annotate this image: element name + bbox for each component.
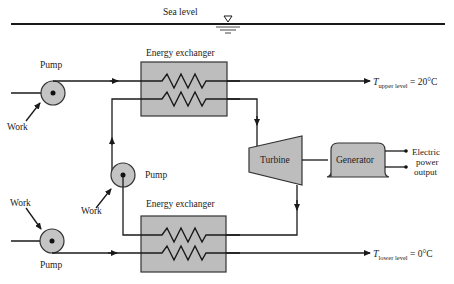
output-label: output — [414, 167, 438, 177]
generator-label: Generator — [336, 155, 375, 165]
turbine-label: Turbine — [260, 155, 290, 165]
lower-exchanger-label: Energy exchanger — [146, 199, 216, 209]
power-label: power — [416, 157, 439, 167]
generator: Generator Electric power output — [327, 143, 440, 177]
upper-temperature-label: Tupper level = 20°C — [373, 76, 437, 89]
upper-exchanger-label: Energy exchanger — [146, 48, 216, 58]
work-arrow-icon — [26, 103, 40, 121]
pump-bottom-label: Pump — [40, 260, 62, 270]
upper-energy-exchanger: Energy exchanger — [130, 48, 240, 116]
electric-label: Electric — [412, 147, 440, 157]
pump-middle-work-label: Work — [81, 206, 102, 216]
sea-level-label: Sea level — [163, 7, 198, 17]
work-arrow-icon — [26, 208, 41, 229]
lower-temperature-label: Tlower level = 0°C — [373, 248, 433, 261]
sea-level: Sea level — [11, 7, 445, 33]
lower-energy-exchanger: Energy exchanger — [130, 199, 240, 272]
otec-diagram: Sea level Energy exchanger Pump Work Tup… — [0, 0, 454, 284]
pump-top-label: Pump — [40, 60, 62, 70]
pump-bottom: Work Pump — [10, 198, 130, 270]
pump-top-work-label: Work — [7, 122, 28, 132]
pump-bottom-work-label: Work — [10, 198, 31, 208]
pump-middle-label: Pump — [145, 170, 167, 180]
